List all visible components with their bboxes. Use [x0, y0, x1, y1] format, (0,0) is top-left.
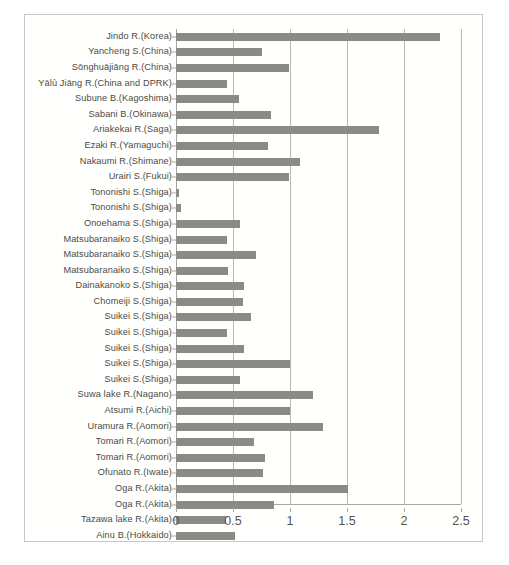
bar-track [176, 372, 461, 388]
bar-row: Sabani B.(Okinawa) [25, 107, 484, 123]
bar [176, 485, 348, 493]
category-label: Onoehama S.(Shiga) [84, 219, 172, 228]
category-label: Tomari R.(Aomori) [96, 438, 172, 447]
bar-row: Nakaumi R.(Shimane) [25, 154, 484, 170]
bar [176, 111, 271, 119]
bar-track [176, 185, 461, 201]
category-label: Tazawa lake R.(Akita) [81, 516, 172, 525]
bar-track [176, 341, 461, 357]
bar-row: Suikei S.(Shiga) [25, 341, 484, 357]
bar-track [176, 201, 461, 217]
bar [176, 251, 256, 259]
bar-track [176, 154, 461, 170]
bar-track [176, 91, 461, 107]
x-tick-label: 2.5 [452, 514, 469, 528]
category-label: Oga R.(Akita) [115, 484, 172, 493]
bar-track [176, 403, 461, 419]
category-label: Matsubaranaiko S.(Shiga) [63, 266, 172, 275]
bar-row: Sōnghuājiāng R.(China) [25, 60, 484, 76]
category-label: Suikei S.(Shiga) [105, 344, 172, 353]
bar-track [176, 294, 461, 310]
bar-track [176, 356, 461, 372]
x-tick-mark-2.5 [461, 508, 462, 512]
bar [176, 360, 290, 368]
category-label: Dainakanoko S.(Shiga) [75, 282, 172, 291]
bar [176, 376, 240, 384]
bar-row: Matsubaranaiko S.(Shiga) [25, 232, 484, 248]
bar [176, 189, 179, 197]
bar-track [176, 169, 461, 185]
category-label: Yālù Jiāng R.(China and DPRK) [38, 79, 172, 88]
bar-track [176, 388, 461, 404]
bar-row: Tononishi S.(Shiga) [25, 201, 484, 217]
category-label: Suikei S.(Shiga) [105, 360, 172, 369]
bar-row: Jindo R.(Korea) [25, 29, 484, 45]
category-label: Ariakekai R.(Saga) [93, 126, 172, 135]
x-tick-mark-1.5 [347, 508, 348, 512]
bar-row: Uramura R.(Aomori) [25, 419, 484, 435]
bar-rows: Jindo R.(Korea)Yancheng S.(China)Sōnghuā… [25, 29, 484, 504]
category-label: Subune B.(Kagoshima) [75, 95, 172, 104]
bar-row: Ariakekai R.(Saga) [25, 123, 484, 139]
bar [176, 64, 289, 72]
bar-track [176, 481, 461, 497]
bar [176, 126, 379, 134]
bar-row: Ainu B.(Hokkaido) [25, 528, 484, 544]
bar-track [176, 123, 461, 139]
bar-row: Tomari R.(Aomori) [25, 450, 484, 466]
bar-row: Urairi S.(Fukui) [25, 169, 484, 185]
bar [176, 469, 263, 477]
bar-row: Ofunato R.(Iwate) [25, 466, 484, 482]
x-tick-mark-0.5 [233, 508, 234, 512]
category-label: Tomari R.(Aomori) [96, 453, 172, 462]
bar-track [176, 60, 461, 76]
bar [176, 158, 300, 166]
bar-row: Yancheng S.(China) [25, 45, 484, 61]
category-label: Ofunato R.(Iwate) [98, 469, 172, 478]
x-tick-label: 2 [401, 514, 408, 528]
bar-row: Suikei S.(Shiga) [25, 325, 484, 341]
category-label: Nakaumi R.(Shimane) [80, 157, 172, 166]
category-label: Sōnghuājiāng R.(China) [72, 63, 172, 72]
bar-track [176, 279, 461, 295]
category-label: Tononishi S.(Shiga) [90, 204, 172, 213]
bar [176, 80, 227, 88]
category-label: Ezaki R.(Yamaguchi) [84, 141, 172, 150]
bar-row: Yālù Jiāng R.(China and DPRK) [25, 76, 484, 92]
bar-row: Subune B.(Kagoshima) [25, 91, 484, 107]
bar-row: Oga R.(Akita) [25, 481, 484, 497]
bar-row: Suikei S.(Shiga) [25, 356, 484, 372]
bar-row: Suwa lake R.(Nagano) [25, 388, 484, 404]
bar-row: Ezaki R.(Yamaguchi) [25, 138, 484, 154]
bar [176, 454, 265, 462]
bar-track [176, 247, 461, 263]
bar [176, 532, 235, 540]
category-label: Tononishi S.(Shiga) [90, 188, 172, 197]
bar-row: Matsubaranaiko S.(Shiga) [25, 247, 484, 263]
bar-row: Onoehama S.(Shiga) [25, 216, 484, 232]
category-label: Suikei S.(Shiga) [105, 328, 172, 337]
bar [176, 345, 244, 353]
bar-track [176, 528, 461, 544]
bar-row: Suikei S.(Shiga) [25, 310, 484, 326]
x-tick-mark-0 [176, 508, 177, 512]
bar [176, 282, 244, 290]
bar [176, 438, 254, 446]
bar [176, 142, 268, 150]
bar [176, 95, 239, 103]
category-label: Suwa lake R.(Nagano) [78, 391, 172, 400]
x-axis-tick-labels: 00.511.522.5 [176, 508, 461, 530]
bar-track [176, 263, 461, 279]
bar-track [176, 450, 461, 466]
bar [176, 33, 440, 41]
bar-track [176, 232, 461, 248]
bar [176, 173, 289, 181]
chart-figure-frame: Jindo R.(Korea)Yancheng S.(China)Sōnghuā… [24, 14, 483, 542]
category-label: Chomeiji S.(Shiga) [94, 297, 172, 306]
bar-row: Suikei S.(Shiga) [25, 372, 484, 388]
category-label: Urairi S.(Fukui) [109, 173, 172, 182]
category-label: Atsumi R.(Aichi) [105, 406, 172, 415]
x-tick-mark-2 [404, 508, 405, 512]
category-label: Suikei S.(Shiga) [105, 375, 172, 384]
bar [176, 267, 228, 275]
